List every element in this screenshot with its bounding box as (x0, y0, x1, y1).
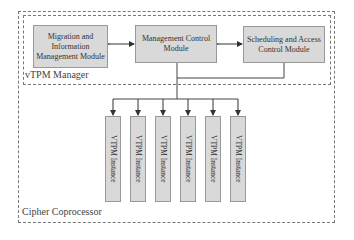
management-line-1: Management Control (142, 34, 210, 44)
vtpm-instance-6: VTPM Instance (230, 116, 246, 202)
vtpm-instance-1: VTPM Instance (105, 116, 121, 202)
vtpm-instance-3: VTPM Instance (155, 116, 171, 202)
line-scheduling-to-bus (177, 63, 284, 78)
vtpm-instance-2: VTPM Instance (130, 116, 146, 202)
migration-line-2: Information (36, 42, 105, 52)
scheduling-access-control-module: Scheduling and Access Control Module (243, 26, 325, 63)
cipher-coprocessor-label: Cipher Coprocessor (22, 206, 102, 217)
vtpm-manager-label: vTPM Manager (25, 69, 89, 80)
scheduling-line-1: Scheduling and Access (247, 35, 321, 45)
migration-line-3: Management Module (36, 52, 105, 62)
management-control-module: Management Control Module (135, 25, 217, 63)
management-line-2: Module (142, 44, 210, 54)
vtpm-instance-5: VTPM Instance (205, 116, 221, 202)
migration-information-management-module: Migration and Information Management Mod… (33, 25, 108, 68)
migration-line-1: Migration and (36, 32, 105, 42)
vtpm-instance-4: VTPM Instance (180, 116, 196, 202)
scheduling-line-2: Control Module (247, 45, 321, 55)
